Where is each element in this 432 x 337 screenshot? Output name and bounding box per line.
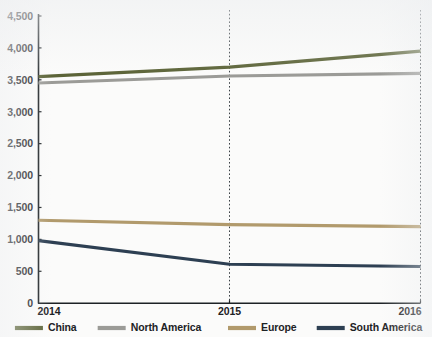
y-tick-label: 1,000 [7,233,33,245]
chart-legend: ChinaNorth AmericaEuropeSouth America [15,321,422,333]
legend-label: North America [131,321,202,333]
chart-canvas: 4,5004,0003,5003,0002,5002,0001,5001,000… [0,0,432,337]
y-tick-label: 3,000 [7,106,33,118]
line-chart: 4,5004,0003,5003,0002,5002,0001,5001,000… [0,0,432,337]
x-tick-label: 2015 [218,305,241,317]
legend-label: Europe [261,321,297,333]
y-tick-label: 4,000 [7,42,33,54]
legend-item-north-america[interactable]: North America [98,321,202,333]
y-axis-tick-labels: 4,5004,0003,5003,0002,5002,0001,5001,000… [7,10,33,309]
y-tick-label: 500 [16,265,33,277]
legend-label: China [48,321,77,333]
x-tick-label: 2016 [399,305,422,317]
legend-item-europe[interactable]: Europe [228,321,297,333]
y-tick-label: 0 [27,297,33,309]
y-tick-label: 1,500 [7,201,33,213]
x-tick-label: 2014 [38,305,61,317]
series-line-europe [39,220,421,226]
legend-label: South America [350,321,423,333]
legend-item-china[interactable]: China [15,321,77,333]
y-tick-label: 3,500 [7,74,33,86]
y-tick-label: 2,500 [7,137,33,149]
y-tick-label: 2,000 [7,169,33,181]
y-tick-label: 4,500 [7,10,33,22]
legend-item-south-america[interactable]: South America [317,321,423,333]
